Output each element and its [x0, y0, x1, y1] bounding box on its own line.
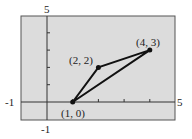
point-label-1: (1, 0) — [61, 107, 85, 120]
point-label-3: (4, 3) — [136, 36, 160, 49]
y-min-label: -1 — [41, 123, 50, 135]
data-point — [96, 65, 101, 70]
data-point — [147, 48, 152, 53]
x-max-label: 5 — [177, 96, 183, 108]
point-label-2: (2, 2) — [69, 54, 93, 67]
x-min-label: -1 — [5, 96, 14, 108]
chart: 5 -1 -1 5 (1, 0) (2, 2) (4, 3) — [0, 0, 192, 139]
data-point — [70, 100, 75, 105]
y-max-label: 5 — [44, 3, 50, 15]
